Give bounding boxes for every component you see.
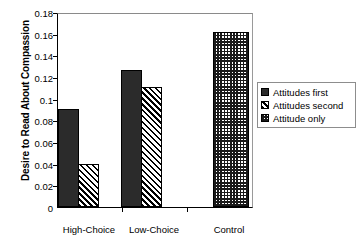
legend-item-attitudes-first: Attitudes first [261, 86, 352, 98]
bar-low-choice-attitudes-second [141, 87, 162, 207]
y-tick-label: 0.16 [19, 29, 53, 40]
y-tick-label: 0.08 [19, 116, 53, 127]
y-tick-label: 0.04 [19, 159, 53, 170]
x-tick-label-control: Control [214, 224, 245, 235]
plot-area [57, 13, 253, 208]
y-tick-label: 0.14 [19, 51, 53, 62]
x-tick-label-low-choice: Low-Choice [129, 224, 179, 235]
y-tick-label: 0.18 [19, 8, 53, 19]
legend-label: Attitudes second [273, 100, 343, 111]
bar-high-choice-attitudes-first [58, 109, 79, 207]
x-tick-label-high-choice: High-Choice [63, 224, 115, 235]
legend-label: Attitudes first [273, 87, 328, 98]
y-tick-label: 0.1 [19, 94, 53, 105]
legend-label: Attitude only [273, 113, 325, 124]
x-axis: High-Choice Low-Choice Control [57, 208, 253, 245]
crosshatch-swatch-icon [261, 114, 269, 122]
x-tick-mark [122, 208, 123, 212]
bar-low-choice-attitudes-first [121, 70, 142, 207]
chart-legend: Attitudes first Attitudes second Attitud… [257, 82, 356, 128]
bar-control-attitude-only [213, 32, 249, 207]
y-tick-label: 0.02 [19, 181, 53, 192]
y-tick-label: 0.12 [19, 73, 53, 84]
legend-item-attitudes-second: Attitudes second [261, 99, 352, 111]
solid-black-swatch-icon [261, 88, 269, 96]
y-axis-tick-labels: 0.18 0.16 0.14 0.12 0.1 0.08 0.06 0.04 0… [19, 0, 53, 245]
diagonal-hatch-swatch-icon [261, 101, 269, 109]
bar-chart-figure: Desire to Read About Compassion 0.18 0.1… [0, 0, 358, 245]
y-tick-label: 0.06 [19, 138, 53, 149]
y-tick-label: 0 [19, 203, 53, 214]
legend-item-attitude-only: Attitude only [261, 112, 352, 124]
bar-high-choice-attitudes-second [78, 164, 99, 207]
x-tick-mark [187, 208, 188, 212]
plot-bars-container [58, 14, 252, 207]
